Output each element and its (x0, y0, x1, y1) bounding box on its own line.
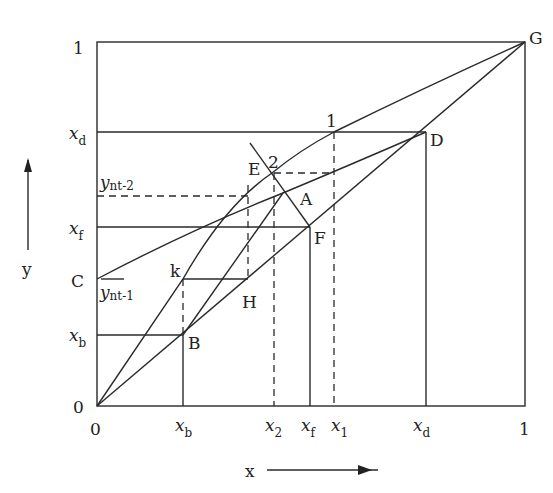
y-tick-0: 0 (73, 397, 84, 417)
x-tick-xb: xb (175, 415, 193, 440)
point-d-label: D (430, 130, 444, 150)
x-tick-x1: x1 (331, 415, 348, 440)
y-nt1-annotation: ynt-1 (99, 282, 134, 303)
x-axis-label: x (245, 461, 255, 481)
y-tick-xb: xb (69, 325, 87, 350)
stage-1-label: 1 (326, 111, 337, 131)
diagonal-line (97, 42, 525, 406)
point-g-label: G (529, 28, 543, 48)
point-a-label: A (299, 189, 313, 209)
x-tick-x2: x2 (265, 415, 282, 440)
diagram-canvas: y x 1 xd xf xb 0 0 xb x2 xf x1 xd 1 G D … (0, 0, 553, 493)
point-e-label: E (248, 159, 260, 179)
x-tick-0: 0 (90, 419, 101, 439)
stage-2-label: 2 (268, 152, 279, 172)
x-tick-xd: xd (413, 415, 431, 440)
x-tick-xf: xf (301, 415, 317, 440)
y-tick-xf: xf (69, 218, 85, 243)
y-tick-1: 1 (73, 38, 84, 58)
y-axis-label: y (21, 259, 32, 279)
y-nt2-annotation: ynt-2 (99, 172, 134, 193)
x-axis-arrow-icon (358, 465, 372, 475)
point-c-label: C (71, 271, 84, 291)
rectifying-operating-line (97, 132, 426, 279)
y-axis-arrow-icon (24, 158, 32, 172)
point-k-label: k (170, 261, 181, 281)
point-b-label: B (188, 333, 201, 353)
x-tick-1: 1 (519, 419, 530, 439)
point-f-label: F (314, 228, 326, 248)
y-tick-xd: xd (69, 123, 87, 148)
point-h-label: H (242, 292, 257, 312)
